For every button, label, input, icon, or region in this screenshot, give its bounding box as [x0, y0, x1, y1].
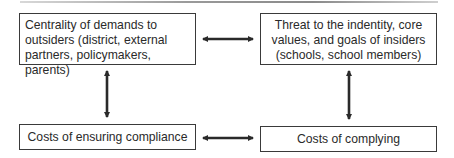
edges-layer: [0, 0, 454, 158]
